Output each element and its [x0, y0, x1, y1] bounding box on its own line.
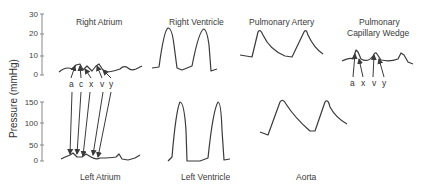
trace-pcw: [342, 50, 413, 64]
trace-right-ventricle: [152, 28, 217, 71]
trace-left-atrium: [61, 153, 140, 160]
y-axes: [40, 14, 44, 161]
ra-to-la-arrows: [70, 92, 111, 157]
trace-left-ventricle: [168, 102, 230, 161]
pressure-waveforms-diagram: [0, 0, 422, 186]
trace-pulmonary-artery: [240, 31, 323, 57]
ra-arrows: [71, 66, 111, 78]
trace-right-atrium: [59, 64, 142, 72]
trace-aorta: [260, 100, 347, 135]
